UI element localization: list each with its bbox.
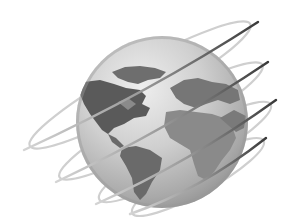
globe-illustration	[0, 0, 291, 224]
globe-logo	[0, 0, 291, 224]
globe	[76, 36, 248, 208]
